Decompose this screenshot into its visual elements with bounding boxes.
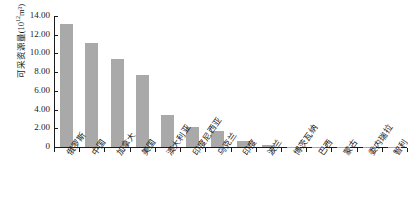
bar	[111, 59, 124, 147]
x-axis-tick	[256, 148, 257, 152]
x-axis-tick	[306, 148, 307, 152]
bar	[85, 43, 98, 147]
x-axis-tick	[54, 148, 55, 152]
x-axis-tick	[231, 148, 232, 152]
y-axis-tick-label: 0	[6, 142, 50, 151]
x-axis-tick	[331, 148, 332, 152]
x-axis-tick	[382, 148, 383, 152]
x-axis-tick	[104, 148, 105, 152]
y-axis-tick-label: 6.00	[6, 86, 50, 95]
x-axis-tick	[79, 148, 80, 152]
chart-figure: 可采资源量(1012m³) 14.0012.0010.008.006.004.0…	[0, 0, 416, 206]
x-axis-tick	[205, 148, 206, 152]
y-axis-tick-label: 4.00	[6, 105, 50, 114]
x-axis-tick	[130, 148, 131, 152]
x-axis-tick	[180, 148, 181, 152]
x-axis-tick	[357, 148, 358, 152]
bar	[136, 75, 149, 147]
x-axis-tick	[155, 148, 156, 152]
x-axis-tick	[281, 148, 282, 152]
x-axis-tick	[407, 148, 408, 152]
y-axis-tick-label: 8.00	[6, 67, 50, 76]
y-axis-tick-label: 2.00	[6, 123, 50, 132]
bars-layer	[54, 16, 407, 147]
y-axis-tick-label: 12.00	[6, 30, 50, 39]
y-axis-tick-label: 14.00	[6, 11, 50, 20]
y-axis-tick-label: 10.00	[6, 48, 50, 57]
bar	[60, 24, 73, 147]
